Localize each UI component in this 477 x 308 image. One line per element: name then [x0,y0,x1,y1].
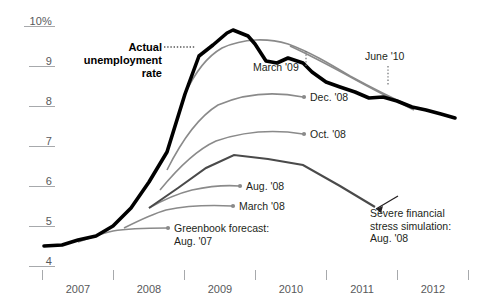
y-tick-5: 5 [2,215,52,227]
marker-aug08 [238,184,242,188]
x-tick-2012: 2012 [403,283,463,295]
annotation-actual-unemployment: Actual unemployment rate [50,41,162,80]
annotation-severe-stress: Severe financial stress simulation: Aug.… [370,207,451,245]
x-tick-2011: 2011 [332,283,392,295]
series-aug08 [149,186,239,208]
marker-dec08 [302,95,306,99]
x-tick-2010: 2010 [261,283,321,295]
annotation-greenbook-forecast: Greenbook forecast: Aug. '07 [174,222,269,247]
annotation-june10: June '10 [365,50,404,63]
y-tick-4: 4 [2,255,52,267]
annotation-oct08: Oct. '08 [310,128,346,141]
unemployment-forecast-chart: 10% 9 8 7 6 5 4 2007 2008 2009 2010 2011… [0,0,477,308]
annotation-aug08: Aug. '08 [246,180,284,193]
y-tick-9: 9 [2,55,52,67]
annotation-march09: March '09 [253,61,299,74]
x-tick-2009: 2009 [190,283,250,295]
marker-greenbook [166,226,170,230]
y-tick-6: 6 [2,175,52,187]
annotation-dec08: Dec. '08 [310,91,348,104]
annotation-march08: March '08 [239,200,285,213]
y-tick-7: 7 [2,135,52,147]
x-tick-2007: 2007 [48,283,108,295]
y-tick-10: 10% [2,15,52,27]
x-axis-ticks [43,270,469,280]
marker-march08 [231,204,235,208]
x-tick-2008: 2008 [119,283,179,295]
series-greenbook-aug07 [78,228,167,242]
marker-oct08 [302,132,306,136]
y-tick-8: 8 [2,95,52,107]
